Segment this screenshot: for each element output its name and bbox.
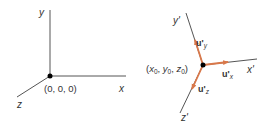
- y-prime-axis-label: y': [172, 15, 181, 26]
- local-frame: y' x' z' u'y u'x u'z (x0, y0, z0): [146, 13, 257, 123]
- coordinate-frames-diagram: y x z (0, 0, 0) y' x' z' u'y u'x u'z (x0…: [0, 0, 276, 125]
- world-frame: y x z (0, 0, 0): [16, 7, 126, 110]
- y-axis-label: y: [38, 7, 45, 18]
- unit-vector-z-label: u'z: [198, 84, 210, 95]
- unit-vector-x-label: u'x: [222, 69, 234, 80]
- x-axis-label: x: [118, 83, 125, 94]
- x-prime-axis-label: x': [246, 64, 255, 75]
- origin-dot: [48, 74, 53, 79]
- unit-vector-x: [203, 62, 228, 65]
- local-origin-dot: [201, 63, 206, 68]
- z-axis-label: z: [16, 99, 22, 110]
- origin-label: (0, 0, 0): [44, 83, 77, 94]
- local-origin-label: (x0, y0, z0): [146, 63, 188, 75]
- z-prime-axis-label: z': [180, 112, 189, 123]
